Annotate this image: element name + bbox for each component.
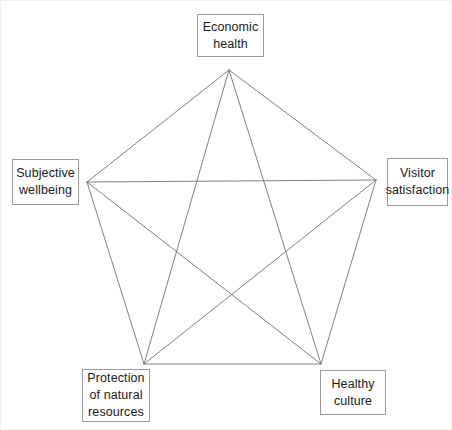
node-subjective-wellbeing: Subjective wellbeing — [12, 159, 79, 205]
pentagram-lines — [1, 1, 452, 430]
node-subjective-wellbeing-label: Subjective wellbeing — [16, 165, 75, 199]
edge-economic-health-to-healthy-culture — [229, 70, 321, 364]
edge-visitor-satisfaction-to-subjective-wellbeing — [87, 180, 376, 182]
node-protection-natural-resources-label: Protection of natural resources — [87, 370, 144, 421]
node-visitor-satisfaction-label: Visitor satisfaction — [386, 165, 450, 199]
edge-economic-health-to-protection-natural-resources — [144, 70, 229, 364]
node-economic-health: Economic health — [197, 14, 264, 57]
node-protection-natural-resources: Protection of natural resources — [82, 369, 150, 422]
edge-group — [87, 70, 376, 364]
node-economic-health-label: Economic health — [203, 19, 259, 53]
edge-subjective-wellbeing-to-economic-health — [87, 70, 229, 182]
edge-protection-natural-resources-to-subjective-wellbeing — [87, 182, 144, 364]
edge-visitor-satisfaction-to-healthy-culture — [321, 180, 376, 364]
node-visitor-satisfaction: Visitor satisfaction — [387, 158, 448, 206]
node-healthy-culture: Healthy culture — [320, 370, 386, 415]
pentagram-diagram: Economic health Visitor satisfaction Hea… — [0, 0, 452, 430]
edge-visitor-satisfaction-to-protection-natural-resources — [144, 180, 376, 364]
edge-healthy-culture-to-subjective-wellbeing — [87, 182, 321, 364]
edge-economic-health-to-visitor-satisfaction — [229, 70, 376, 180]
node-healthy-culture-label: Healthy culture — [331, 376, 374, 410]
